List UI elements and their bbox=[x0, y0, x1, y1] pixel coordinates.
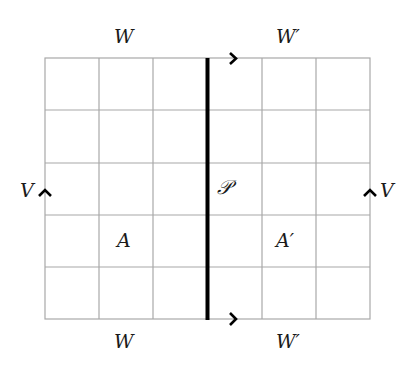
label-bottom-right: W′ bbox=[276, 330, 301, 352]
gluing-diagram: W W′ W W′ V V A A′ 𝒫 bbox=[0, 0, 415, 365]
label-region-left: A bbox=[115, 229, 131, 251]
label-region-right: A′ bbox=[274, 229, 295, 251]
label-divider: 𝒫 bbox=[217, 175, 237, 199]
label-left: V bbox=[20, 179, 36, 201]
label-top-right: W′ bbox=[276, 25, 301, 47]
label-right: V bbox=[380, 179, 396, 201]
label-bottom-left: W bbox=[114, 330, 135, 352]
label-top-left: W bbox=[114, 25, 135, 47]
